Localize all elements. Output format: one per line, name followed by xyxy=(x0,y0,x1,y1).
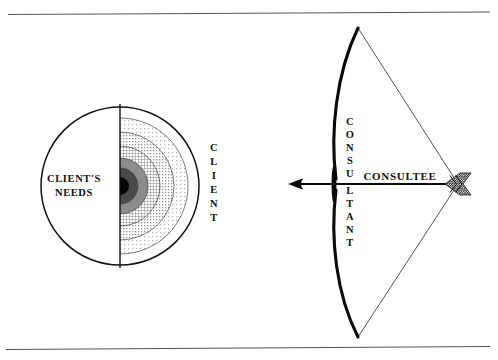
client-letter-2: I xyxy=(212,170,216,181)
consultant-letter-8: N xyxy=(346,224,354,235)
consultant-letter-3: S xyxy=(347,155,353,166)
consultant-letter-5: L xyxy=(346,185,353,196)
client-letter-0: C xyxy=(210,142,218,153)
client-vertical-label: C L I E N T xyxy=(210,142,218,223)
client-letter-4: N xyxy=(210,198,218,209)
consultant-letter-9: T xyxy=(346,237,353,248)
figure-svg: CLIENT'S NEEDS C L I E N T xyxy=(0,0,498,360)
consultant-letter-0: C xyxy=(346,116,354,127)
bow-string xyxy=(358,28,458,337)
clients-needs-label-line1: CLIENT'S xyxy=(47,173,101,184)
consultant-letter-6: T xyxy=(346,198,353,209)
client-needs-circle: CLIENT'S NEEDS C L I E N T xyxy=(41,104,218,268)
arrow-fletching-icon xyxy=(445,173,471,195)
consultant-letter-1: O xyxy=(346,129,354,140)
fletch-body xyxy=(445,173,471,195)
clients-needs-label-line2: NEEDS xyxy=(55,187,93,198)
client-letter-5: T xyxy=(210,212,217,223)
top-border-rule xyxy=(8,12,490,15)
client-letter-1: L xyxy=(210,156,217,167)
consultant-letter-7: A xyxy=(346,211,354,222)
consultant-vertical-label: C O N S U L T A N T xyxy=(346,116,354,248)
bow-upper-limb xyxy=(334,28,358,179)
consultant-consultee-bow: C O N S U L T A N T CONSULTEE xyxy=(288,28,471,337)
consultant-letter-4: U xyxy=(346,168,354,179)
bottom-border-rule xyxy=(6,347,490,350)
client-letter-3: E xyxy=(210,184,217,195)
figure-canvas: CLIENT'S NEEDS C L I E N T xyxy=(0,0,498,360)
consultant-letter-2: N xyxy=(346,142,354,153)
consultee-label: CONSULTEE xyxy=(363,170,436,182)
